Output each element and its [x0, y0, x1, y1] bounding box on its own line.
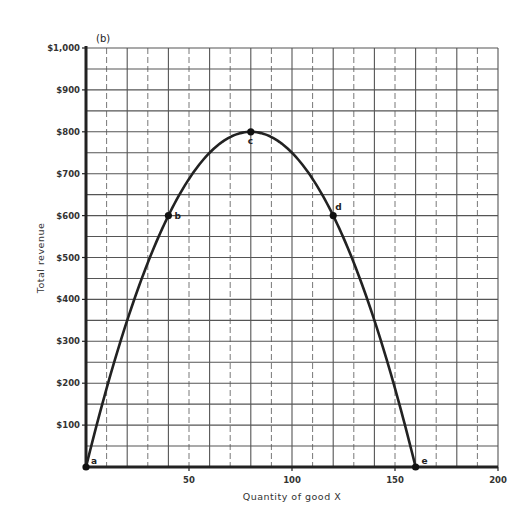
- y-tick-label: $500: [56, 253, 80, 263]
- y-axis-title: Total revenue: [35, 223, 46, 295]
- x-tick-label: 50: [183, 475, 195, 485]
- total-revenue-chart: $100$200$300$400$500$600$700$800$900$1,0…: [0, 0, 526, 524]
- y-tick-label: $300: [56, 336, 80, 346]
- y-axis-ticks: $100$200$300$400$500$600$700$800$900$1,0…: [47, 43, 86, 430]
- point-e-label: e: [422, 456, 428, 466]
- point-a-marker: [82, 463, 89, 470]
- y-tick-label: $900: [56, 85, 80, 95]
- y-tick-label: $200: [56, 378, 80, 388]
- point-d-marker: [330, 212, 337, 219]
- x-tick-label: 100: [283, 475, 301, 485]
- point-c-label: c: [248, 136, 253, 146]
- point-c-marker: [247, 128, 254, 135]
- point-a-label: a: [91, 456, 97, 466]
- point-b-marker: [165, 212, 172, 219]
- x-tick-label: 150: [386, 475, 404, 485]
- point-d-label: d: [335, 202, 341, 212]
- y-tick-label: $600: [56, 211, 80, 221]
- y-tick-label: $800: [56, 127, 80, 137]
- point-b-label: b: [174, 211, 181, 221]
- x-axis-title: Quantity of good X: [243, 491, 341, 502]
- y-tick-label: $400: [56, 294, 80, 304]
- x-tick-label: 200: [489, 475, 507, 485]
- point-e-marker: [412, 463, 419, 470]
- y-tick-label: $100: [56, 420, 80, 430]
- y-tick-label: $700: [56, 169, 80, 179]
- y-tick-label: $1,000: [47, 43, 80, 53]
- chart-grid: [86, 48, 498, 467]
- x-axis-ticks: 50100150200: [183, 467, 507, 485]
- panel-label: (b): [96, 33, 110, 44]
